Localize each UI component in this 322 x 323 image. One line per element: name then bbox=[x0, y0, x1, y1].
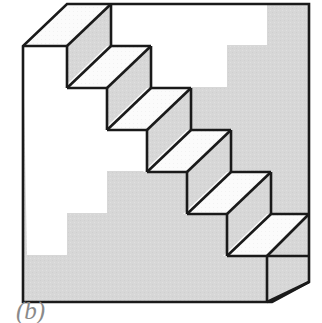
step-profile-2 bbox=[67, 88, 107, 130]
schroeder-staircase-illustration bbox=[0, 0, 322, 323]
gray-right-side-face bbox=[267, 256, 309, 303]
figure-container: (b) bbox=[0, 0, 322, 323]
step-profile-1 bbox=[23, 46, 67, 88]
figure-caption: (b) bbox=[16, 298, 45, 323]
step-profile-3 bbox=[107, 130, 147, 172]
